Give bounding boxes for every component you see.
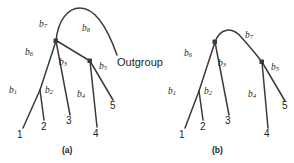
tree-b-branch-b3 [215,42,229,115]
tree-a-outgroup-label: Outgroup [117,57,163,68]
tree-b-label-b6: b6 [184,49,192,59]
tree-a-taxon-5: 5 [110,101,116,111]
phylogenetic-tree-figure: b7 b8 b6 b3 b5 b1 b2 b4 Outgroup 1 2 3 4… [0,0,294,163]
tree-a-label-b6: b6 [25,48,33,58]
tree-b-label-b7: b7 [245,31,253,41]
tree-b-node-45-dot [260,60,265,65]
tree-b-label-b1: b1 [168,87,176,97]
tree-a-label-b1: b1 [9,86,17,96]
tree-b-label-b3: b3 [218,59,226,69]
tree-a-label-b5: b5 [99,62,107,72]
tree-a-label-b3: b3 [59,58,67,68]
tree-a-label-b7: b7 [39,20,47,30]
tree-b-taxon-1: 1 [179,130,185,140]
tree-a-label-b8: b8 [82,24,90,34]
tree-a-node-45-dot [88,59,93,64]
tree-a-branch-b6 [40,41,56,90]
tree-a-label-b2: b2 [45,86,53,96]
tree-a-taxon-3: 3 [66,116,72,126]
tree-b-taxon-3: 3 [225,116,231,126]
tree-a-taxon-1: 1 [17,130,23,140]
tree-a-branch-b3 [56,41,70,115]
tree-b-taxon-2: 2 [200,122,206,132]
tree-b-label-b5: b5 [271,63,279,73]
tree-b-branch-b6 [199,42,215,91]
tree-b-label-b4: b4 [248,90,256,100]
tree-b-taxon-4: 4 [264,129,270,139]
panel-caption-b: (b) [212,146,223,155]
tree-a-taxon-2: 2 [41,122,47,132]
tree-b-branch-b2 [199,91,203,120]
tree-a-taxon-4: 4 [93,129,99,139]
tree-a-branch-b2 [40,90,44,120]
tree-b-branch-b1 [185,91,199,128]
tree-a-branch-b1 [23,90,40,128]
tree-b-node-apex-dot [213,40,218,45]
tree-a-label-b4: b4 [77,90,85,100]
tree-b-taxon-5: 5 [282,101,288,111]
panel-caption-a: (a) [62,146,72,155]
tree-a-node-b7-dot [54,39,59,44]
tree-b-label-b2: b2 [204,87,212,97]
